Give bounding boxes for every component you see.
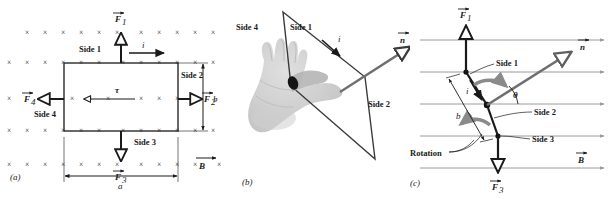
- svg-text:×: ×: [193, 28, 197, 37]
- svg-text:×: ×: [157, 58, 161, 67]
- svg-text:×: ×: [106, 94, 110, 103]
- panel-c-canvas: F 1 F 3 Side 1 Side 2 Side 3 i n θ b Rot…: [408, 0, 608, 199]
- label-current-i-b: i: [338, 34, 341, 44]
- panel-b: Side 4 Side 1 Side 2 i n (b): [230, 0, 410, 199]
- label-dimension-b-c: b: [456, 111, 461, 121]
- svg-text:×: ×: [157, 94, 161, 103]
- svg-text:×: ×: [157, 28, 161, 37]
- svg-text:×: ×: [157, 160, 161, 169]
- label-angle-theta: θ: [513, 90, 518, 100]
- panel-c-label: (c): [410, 178, 420, 188]
- label-dimension-b: b: [213, 94, 218, 104]
- svg-text:×: ×: [7, 160, 11, 169]
- label-force-f1-c: F: [459, 10, 466, 20]
- label-side-2-b: Side 2: [368, 99, 390, 109]
- svg-text:×: ×: [139, 94, 143, 103]
- svg-text:×: ×: [43, 28, 47, 37]
- panel-a-label: (a): [10, 172, 21, 182]
- svg-text:×: ×: [211, 126, 215, 135]
- svg-text:×: ×: [79, 58, 83, 67]
- svg-text:×: ×: [97, 126, 101, 135]
- svg-text:×: ×: [25, 160, 29, 169]
- panel-c: F 1 F 3 Side 1 Side 2 Side 3 i n θ b Rot…: [408, 0, 608, 199]
- svg-text:×: ×: [79, 28, 83, 37]
- panel-c-labels: F 1 F 3 Side 1 Side 2 Side 3 i n θ b Rot…: [410, 9, 589, 195]
- label-field-b-c: B: [577, 155, 584, 165]
- label-dimension-a: a: [118, 181, 123, 191]
- label-torque-tau: τ: [115, 85, 120, 95]
- panel-a: ××× ××× ××× ×× ××× ××× ××× ××× ××× ××× ×…: [0, 0, 232, 199]
- svg-text:×: ×: [193, 126, 197, 135]
- svg-text:×: ×: [43, 58, 47, 67]
- svg-text:×: ×: [79, 160, 83, 169]
- label-side-1: Side 1: [79, 44, 101, 54]
- label-side-1-b: Side 1: [290, 22, 312, 32]
- svg-text:×: ×: [115, 28, 119, 37]
- svg-text:×: ×: [7, 58, 11, 67]
- rotation-arrow-upper: [474, 80, 506, 86]
- svg-text:×: ×: [139, 58, 143, 67]
- label-side-4-b: Side 4: [236, 22, 259, 32]
- label-side-2: Side 2: [181, 70, 203, 80]
- label-force-f1-sub-c: 1: [467, 13, 472, 23]
- svg-text:×: ×: [61, 28, 65, 37]
- panel-b-label: (b): [242, 177, 253, 187]
- svg-text:×: ×: [115, 160, 119, 169]
- label-side-2-c: Side 2: [534, 107, 556, 117]
- svg-text:×: ×: [70, 94, 74, 103]
- svg-text:×: ×: [217, 160, 221, 169]
- rotation-arrow-lower: [461, 119, 490, 125]
- svg-text:×: ×: [25, 58, 29, 67]
- svg-text:×: ×: [88, 94, 92, 103]
- svg-text:×: ×: [25, 28, 29, 37]
- label-normal-n: n: [400, 35, 405, 45]
- label-normal-n-c: n: [580, 42, 585, 52]
- label-rotation: Rotation: [410, 148, 442, 158]
- svg-text:×: ×: [97, 160, 101, 169]
- panel-b-canvas: Side 4 Side 1 Side 2 i n (b): [230, 0, 410, 199]
- svg-text:×: ×: [139, 160, 143, 169]
- svg-text:×: ×: [25, 126, 29, 135]
- svg-text:×: ×: [7, 94, 11, 103]
- label-force-f2: F: [203, 94, 210, 104]
- svg-text:×: ×: [7, 126, 11, 135]
- label-current-i: i: [142, 40, 145, 50]
- label-field-b: B: [198, 161, 205, 171]
- label-force-f4-sub: 4: [31, 97, 36, 107]
- svg-text:×: ×: [139, 126, 143, 135]
- label-force-f3-c: F: [491, 182, 498, 192]
- label-side-1-c: Side 1: [496, 58, 518, 68]
- label-current-i-c: i: [466, 86, 469, 96]
- label-side-4: Side 4: [34, 109, 57, 119]
- svg-text:×: ×: [97, 58, 101, 67]
- svg-text:×: ×: [43, 126, 47, 135]
- svg-text:×: ×: [97, 28, 101, 37]
- svg-text:×: ×: [61, 160, 65, 169]
- loop-edge-lower: [487, 105, 498, 136]
- svg-text:×: ×: [193, 58, 197, 67]
- svg-text:×: ×: [157, 126, 161, 135]
- leader-lines: [449, 64, 532, 152]
- normal-vector-arrow: [340, 47, 410, 92]
- svg-text:×: ×: [175, 28, 179, 37]
- label-force-f1: F: [114, 14, 121, 24]
- svg-text:×: ×: [79, 126, 83, 135]
- svg-text:×: ×: [43, 160, 47, 169]
- svg-text:×: ×: [193, 160, 197, 169]
- leader-side-2: [494, 112, 532, 118]
- label-force-f3-sub-c: 3: [498, 185, 504, 195]
- panel-a-canvas: ××× ××× ××× ×× ××× ××× ××× ××× ××× ××× ×…: [0, 0, 232, 199]
- figure-magnetic-torque-loop: ××× ××× ××× ×× ××× ××× ××× ××× ××× ××× ×…: [0, 0, 608, 199]
- label-force-f1-sub: 1: [122, 17, 127, 27]
- svg-text:×: ×: [211, 28, 215, 37]
- svg-text:×: ×: [175, 160, 179, 169]
- svg-text:×: ×: [211, 58, 215, 67]
- leader-rotation-lower: [449, 134, 482, 152]
- label-side-3: Side 3: [134, 137, 156, 147]
- label-side-3-c: Side 3: [532, 134, 554, 144]
- loop-edge-upper: [466, 72, 487, 105]
- label-force-f4: F: [23, 94, 30, 104]
- svg-text:×: ×: [139, 28, 143, 37]
